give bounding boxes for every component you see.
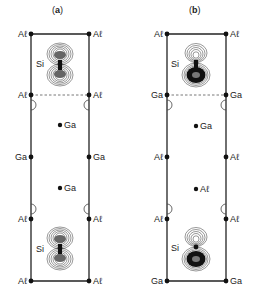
- atom-dot: [29, 155, 34, 160]
- atom-dot: [165, 155, 170, 160]
- atom-label: Aℓ: [93, 90, 103, 100]
- atom-dot: [194, 187, 198, 191]
- atom-dot: [194, 245, 199, 250]
- half-circle-marker: [221, 100, 226, 110]
- panel-b: (b) Aℓ Aℓ Ga Ga Aℓ Aℓ Aℓ Aℓ Ga Ga: [151, 5, 242, 286]
- atom-dot: [165, 279, 170, 284]
- atom-label: Aℓ: [230, 152, 240, 162]
- atom-dot: [58, 62, 63, 67]
- atom-dot: [165, 217, 170, 222]
- atom-label: Aℓ: [93, 214, 103, 224]
- atom-dot: [87, 279, 92, 284]
- atom-label: Si: [36, 244, 44, 254]
- si-orbital-bottom: Si: [171, 228, 210, 272]
- si-orbital-top: Si: [171, 44, 210, 88]
- atom-label: Aℓ: [18, 214, 28, 224]
- atom-label: Aℓ: [18, 29, 28, 39]
- atom-dot: [58, 186, 62, 190]
- atom-dot: [29, 217, 34, 222]
- half-circle-marker: [167, 204, 172, 214]
- atom-dot: [87, 217, 92, 222]
- atom-label: Aℓ: [18, 276, 28, 286]
- atom-label: Aℓ: [154, 152, 164, 162]
- atom-label: Si: [171, 59, 179, 69]
- atom-dot: [224, 217, 229, 222]
- atom-label: Ga: [230, 276, 242, 286]
- atom-label: Aℓ: [93, 29, 103, 39]
- atom-label: Aℓ: [200, 184, 210, 194]
- si-orbital-top: Si: [36, 43, 73, 86]
- atom-label: Aℓ: [230, 29, 240, 39]
- half-circle-marker: [84, 100, 89, 110]
- atom-dot: [29, 93, 34, 98]
- atom-dot: [194, 61, 199, 66]
- atom-dot: [58, 246, 63, 251]
- atom-dot: [58, 123, 62, 127]
- atom-dot: [87, 32, 92, 37]
- half-circle-marker: [84, 204, 89, 214]
- atom-label: Ga: [93, 152, 105, 162]
- atom-label: Ga: [15, 152, 27, 162]
- panel-a-title: (a): [52, 5, 63, 15]
- atom-dot: [87, 93, 92, 98]
- atom-label: Si: [36, 59, 44, 69]
- half-circle-marker: [167, 100, 172, 110]
- atom-label: Ga: [200, 121, 212, 131]
- atom-label: Ga: [151, 90, 163, 100]
- atom-dot: [29, 279, 34, 284]
- atom-dot: [224, 155, 229, 160]
- atom-dot: [29, 32, 34, 37]
- half-circle-marker: [221, 204, 226, 214]
- atom-label: Ga: [64, 183, 76, 193]
- atom-label: Ga: [151, 276, 163, 286]
- supercell-diagram: (a) Aℓ Aℓ Aℓ Aℓ Ga Ga Aℓ Aℓ: [0, 0, 258, 298]
- atom-dot: [87, 155, 92, 160]
- atom-label: Aℓ: [154, 214, 164, 224]
- atom-dot: [224, 93, 229, 98]
- atom-dot: [165, 93, 170, 98]
- atom-dot: [224, 279, 229, 284]
- si-orbital-bottom: Si: [36, 227, 73, 270]
- panel-b-title: (b): [189, 5, 201, 15]
- half-circle-marker: [31, 204, 36, 214]
- atom-label: Ga: [64, 120, 76, 130]
- atom-label: Ga: [230, 90, 242, 100]
- atom-label: Si: [171, 243, 179, 253]
- atom-dot: [194, 124, 198, 128]
- atom-label: Aℓ: [230, 214, 240, 224]
- atom-dot: [224, 32, 229, 37]
- panel-a: (a) Aℓ Aℓ Aℓ Aℓ Ga Ga Aℓ Aℓ: [15, 5, 105, 286]
- atom-label: Aℓ: [93, 276, 103, 286]
- atom-label: Aℓ: [154, 29, 164, 39]
- atom-label: Aℓ: [18, 90, 28, 100]
- half-circle-marker: [31, 100, 36, 110]
- atom-dot: [165, 32, 170, 37]
